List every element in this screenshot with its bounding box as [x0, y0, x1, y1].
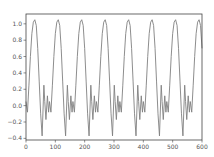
y-tick-label: −0.2	[7, 118, 22, 125]
y-tick-label: −0.4	[7, 134, 22, 141]
series-line-signal	[26, 20, 202, 136]
x-tick-label: 300	[108, 143, 120, 150]
x-tick-label: 100	[50, 143, 62, 150]
y-axis: −0.4−0.20.00.20.40.60.81.0	[7, 20, 26, 142]
y-tick-label: 0.0	[12, 102, 22, 109]
y-tick-label: 0.4	[12, 69, 22, 76]
y-tick-label: 0.2	[12, 85, 22, 92]
y-tick-label: 1.0	[12, 20, 22, 27]
x-tick-label: 400	[138, 143, 150, 150]
y-tick-label: 0.6	[12, 53, 22, 60]
x-axis: 0100200300400500600	[24, 140, 208, 150]
x-tick-label: 0	[24, 143, 28, 150]
y-tick-label: 0.8	[12, 36, 22, 43]
plot-area	[26, 20, 202, 136]
x-tick-label: 600	[196, 143, 208, 150]
x-tick-label: 500	[167, 143, 179, 150]
x-tick-label: 200	[79, 143, 91, 150]
line-chart: 0100200300400500600 −0.4−0.20.00.20.40.6…	[0, 0, 214, 157]
